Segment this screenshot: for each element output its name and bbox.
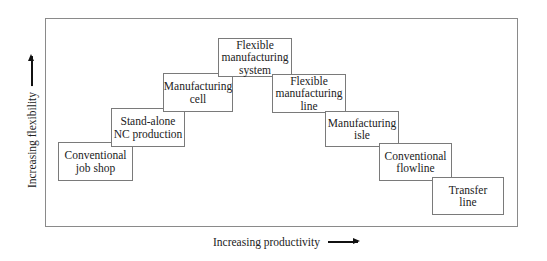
box-flexible-manufacturing-line: Flexible manufacturing line <box>272 74 346 113</box>
arrow-up-icon <box>31 56 33 86</box>
box-transfer-line: Transfer line <box>432 177 504 215</box>
box-stand-alone-nc-production: Stand-alone NC production <box>111 108 185 147</box>
box-conventional-flowline: Conventional flowline <box>379 143 452 181</box>
x-axis-label: Increasing productivity <box>213 236 358 248</box>
box-manufacturing-cell: Manufacturing cell <box>163 73 233 112</box>
y-axis-label: Increasing flexibility <box>24 58 40 186</box>
box-manufacturing-isle: Manufacturing isle <box>325 111 399 147</box>
y-axis-label-text: Increasing flexibility <box>26 92 38 188</box>
box-conventional-job-shop: Conventional job shop <box>58 142 133 181</box>
box-flexible-manufacturing-system: Flexible manufacturing system <box>218 38 292 77</box>
arrow-right-icon <box>328 241 358 243</box>
x-axis-label-text: Increasing productivity <box>213 236 320 248</box>
